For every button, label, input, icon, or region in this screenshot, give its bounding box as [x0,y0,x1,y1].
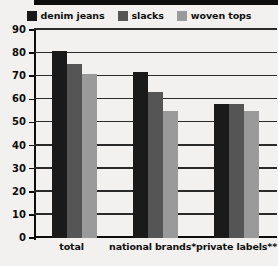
legend-swatch-slacks [118,11,128,21]
y-axis-tick-label: 0 [19,233,26,243]
x-axis-category-label: national brands* [109,242,196,252]
y-axis-tick-label: 80 [12,48,26,58]
top-divider-rule [34,0,278,5]
bars-layer [34,30,277,238]
legend-entry: denim jeans [27,11,105,21]
y-axis-tick-label: 50 [12,117,26,127]
bar-slacks[interactable] [67,64,82,238]
legend-label: slacks [132,11,164,21]
chart-legend: denim jeansslackswoven tops [0,8,278,24]
y-axis-tick-label: 90 [12,25,26,35]
y-axis-tick-label: 60 [12,94,26,104]
bar-denim-jeans[interactable] [133,72,148,238]
legend-entry: slacks [118,11,164,21]
legend-swatch-denim-jeans [27,11,37,21]
legend-swatch-woven-tops [177,11,187,21]
y-axis: 9080706050403020100 [0,30,34,238]
x-axis: totalnational brands*private labels** [34,242,277,252]
bar-group [115,30,196,238]
y-axis-tick-label: 10 [12,210,26,220]
legend-label: woven tops [191,11,252,21]
x-axis-category-label: private labels** [196,242,277,252]
bar-woven-tops[interactable] [163,111,178,238]
legend-entry: woven tops [177,11,252,21]
legend-label: denim jeans [41,11,105,21]
bar-group [196,30,277,238]
y-axis-tick-label: 40 [12,141,26,151]
y-axis-tick-label: 20 [12,187,26,197]
bar-slacks[interactable] [148,92,163,238]
x-axis-category-label: total [34,242,109,252]
bar-slacks[interactable] [229,104,244,238]
bar-woven-tops[interactable] [82,74,97,238]
bar-denim-jeans[interactable] [214,104,229,238]
y-axis-tick-label: 70 [12,71,26,81]
plot-area [34,30,277,238]
bar-woven-tops[interactable] [244,111,259,238]
y-axis-tick-label: 30 [12,164,26,174]
bar-denim-jeans[interactable] [52,51,67,238]
bar-group [34,30,115,238]
